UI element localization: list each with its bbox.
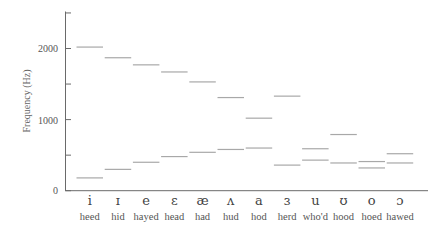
vowel-symbol: a	[255, 193, 263, 208]
vowel-symbol: ɜ	[284, 193, 291, 208]
y-ticks	[66, 13, 72, 191]
word-label: heed	[80, 211, 101, 222]
vowel-symbol: ɛ	[171, 193, 178, 208]
vowel-symbol: i	[88, 193, 92, 208]
word-label: hawed	[386, 211, 414, 222]
y-axis: 0 1000 2000 Frequency (Hz)	[21, 12, 71, 197]
vowel-symbol: ʊ	[340, 193, 348, 208]
y-axis-title: Frequency (Hz)	[21, 69, 33, 132]
word-label: hod	[251, 211, 268, 222]
vowel-symbol: ʌ	[226, 193, 235, 208]
y-tick-label-1000: 1000	[38, 115, 58, 126]
word-label: hud	[223, 211, 240, 222]
vowel-symbol: ɪ	[116, 193, 120, 208]
vowel-symbol: u	[311, 193, 319, 208]
word-label: head	[164, 211, 185, 222]
vowel-symbol: e	[142, 193, 150, 208]
word-label: had	[195, 211, 211, 222]
vowel-symbol: æ	[196, 193, 208, 208]
y-tick-label-2000: 2000	[38, 43, 58, 54]
word-label: who'd	[303, 211, 329, 222]
word-label: hid	[111, 211, 125, 222]
x-labels: iheedɪhidehayedɛheadæhadʌhudahodɜherduwh…	[80, 193, 415, 222]
word-label: herd	[278, 211, 297, 222]
y-tick-label-0: 0	[53, 185, 58, 196]
word-label: hood	[333, 211, 355, 222]
formant-segments	[77, 47, 414, 178]
formant-chart: 0 1000 2000 Frequency (Hz) iheedɪhidehay…	[0, 0, 447, 231]
vowel-symbol: ɔ	[396, 193, 403, 208]
word-label: hayed	[134, 211, 160, 222]
vowel-symbol: o	[368, 193, 376, 208]
word-label: hoed	[362, 211, 383, 222]
